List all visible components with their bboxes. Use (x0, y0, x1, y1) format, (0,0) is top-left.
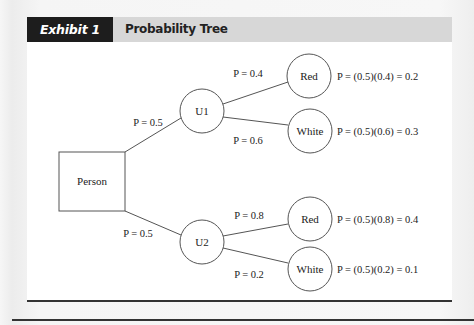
node-u1-red-label: Red (300, 70, 318, 82)
edge-u2-red (223, 224, 288, 236)
node-u2-white-label: White (297, 263, 324, 275)
page-bottom-rule (12, 319, 474, 321)
node-u1-white-label: White (297, 125, 324, 137)
outcome-u2-white: P = (0.5)(0.2) = 0.1 (337, 264, 418, 276)
edge-u2-white-prob: P = 0.2 (234, 269, 264, 280)
exhibit-bottom-rule (27, 300, 452, 302)
node-person-label: Person (77, 175, 107, 187)
node-u2-label: U2 (195, 236, 208, 248)
edge-u1-white (223, 117, 288, 125)
edge-u1-prob: P = 0.5 (133, 117, 163, 128)
edge-u1-white-prob: P = 0.6 (233, 135, 263, 146)
edge-u1-red-prob: P = 0.4 (233, 68, 263, 79)
edge-u2-prob: P = 0.5 (123, 228, 153, 239)
node-u2-red-label: Red (301, 213, 319, 225)
edge-u2-red-prob: P = 0.8 (234, 210, 264, 221)
outcome-u2-red: P = (0.5)(0.8) = 0.4 (337, 214, 419, 226)
edge-u1-red (223, 82, 288, 104)
edge-u2-white (223, 248, 288, 263)
outcome-u1-white: P = (0.5)(0.6) = 0.3 (337, 126, 418, 138)
probability-tree-diagram: Person U1 P = 0.5 U2 P = 0.5 P = 0.4 Red… (0, 0, 474, 325)
outcome-u1-red: P = (0.5)(0.4) = 0.2 (337, 71, 418, 83)
node-u1-label: U1 (195, 105, 208, 117)
